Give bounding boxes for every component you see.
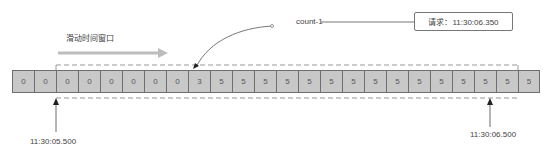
bucket-cell: 0 (144, 70, 166, 93)
window-end-time-label: 11:30:06.500 (470, 130, 516, 139)
bucket-cell: 5 (518, 70, 540, 93)
bucket-cell: 0 (78, 70, 100, 93)
bucket-cell: 5 (342, 70, 364, 93)
bucket-cell: 0 (12, 70, 34, 93)
bucket-cell: 0 (166, 70, 188, 93)
bucket-cell: 5 (474, 70, 496, 93)
window-start-arrow-icon (53, 98, 59, 132)
bucket-cell: 5 (232, 70, 254, 93)
bucket-cell: 5 (386, 70, 408, 93)
bucket-cell: 5 (364, 70, 386, 93)
slide-direction-arrow-icon (58, 48, 168, 58)
bucket-cell: 5 (298, 70, 320, 93)
bucket-cell: 5 (320, 70, 342, 93)
count-annotation-label: count-1 (296, 17, 323, 26)
bucket-cell: 5 (408, 70, 430, 93)
sliding-window-title: 滑动时间窗口 (66, 32, 114, 43)
bucket-cell: 5 (430, 70, 452, 93)
count-decrement-arrow-icon (193, 22, 414, 69)
time-bucket-row: 0 0 0 0 0 0 0 0 3 5 5 5 5 5 5 5 5 5 5 5 … (12, 70, 540, 93)
bucket-cell: 0 (100, 70, 122, 93)
bucket-cell: 5 (210, 70, 232, 93)
bucket-cell: 5 (276, 70, 298, 93)
bucket-cell: 3 (188, 70, 210, 93)
bucket-cell: 5 (496, 70, 518, 93)
request-time-label: 请求：11:30:06.350 (428, 16, 498, 27)
window-start-time-label: 11:30:05.500 (30, 137, 76, 146)
bucket-cell: 0 (56, 70, 78, 93)
bucket-cell: 5 (254, 70, 276, 93)
bucket-cell: 0 (122, 70, 144, 93)
bucket-cell: 5 (452, 70, 474, 93)
request-time-box: 请求：11:30:06.350 (414, 12, 513, 31)
window-end-arrow-icon (487, 98, 493, 127)
bucket-cell: 0 (34, 70, 56, 93)
